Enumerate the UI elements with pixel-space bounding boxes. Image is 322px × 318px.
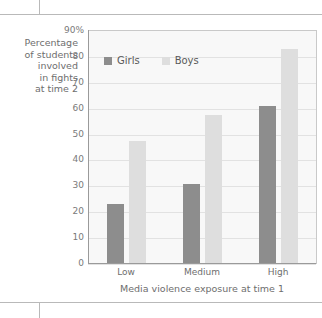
legend-swatch-girls — [104, 57, 112, 65]
y-axis-tick-labels: 0102030405060708090% — [46, 30, 84, 264]
y-axis-tick-label: 10 — [48, 232, 84, 242]
y-axis-tick-label: 20 — [48, 206, 84, 216]
legend-item-boys: Boys — [162, 55, 199, 66]
bar-girls-high — [259, 106, 276, 264]
x-axis-tick-labels: LowMediumHigh — [88, 267, 316, 281]
bar-chart-figure: Percentage of students involved in fight… — [0, 15, 322, 302]
x-axis-line — [88, 263, 316, 264]
y-axis-tick-label: 0 — [48, 258, 84, 268]
page-margin-line-bottom — [39, 302, 40, 318]
legend-swatch-boys — [162, 57, 170, 65]
bar-boys-low — [129, 141, 146, 264]
x-axis-tick-label: Medium — [184, 267, 220, 277]
y-axis-tick-label: 50 — [48, 129, 84, 139]
bar-girls-low — [107, 204, 124, 264]
y-axis-tick-label: 80 — [48, 51, 84, 61]
legend-item-girls: Girls — [104, 55, 140, 66]
bar-girls-medium — [183, 184, 200, 264]
legend-label-boys: Boys — [175, 55, 199, 66]
page-rule-bottom — [0, 302, 322, 303]
x-axis-tick-label: Low — [117, 267, 135, 277]
y-axis-tick-label: 40 — [48, 154, 84, 164]
y-axis-tick-label: 70 — [48, 77, 84, 87]
legend: Girls Boys — [104, 55, 199, 66]
y-axis-line — [88, 30, 89, 264]
x-axis-title: Media violence exposure at time 1 — [88, 283, 316, 294]
x-axis-tick-label: High — [268, 267, 289, 277]
y-axis-tick-label: 90% — [48, 25, 84, 35]
y-axis-tick-label: 60 — [48, 103, 84, 113]
legend-label-girls: Girls — [117, 55, 140, 66]
bar-boys-medium — [205, 115, 222, 264]
bar-boys-high — [281, 49, 298, 264]
page-margin-line-top — [39, 0, 40, 15]
y-axis-tick-label: 30 — [48, 180, 84, 190]
gridline — [88, 264, 316, 265]
